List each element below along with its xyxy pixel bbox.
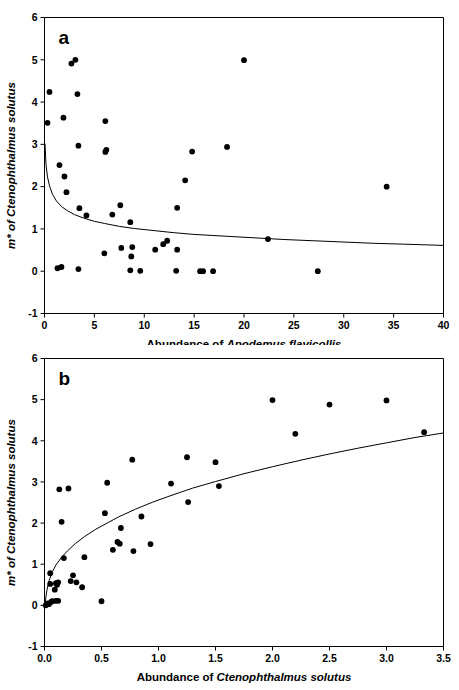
- data-point: [103, 147, 109, 153]
- y-tick-label: -1: [28, 307, 37, 319]
- data-point: [47, 570, 53, 576]
- y-tick-label: 0: [32, 599, 38, 611]
- x-axis-title-plain: Abundance of: [147, 338, 227, 346]
- data-point: [384, 184, 390, 190]
- data-point: [131, 548, 137, 554]
- fit-curve: [45, 433, 443, 605]
- x-tick-label: 1.5: [208, 652, 223, 664]
- x-tick-label: 0.0: [37, 652, 52, 664]
- x-axis-title: Abundance of Ctenophthalmus solutus: [137, 671, 352, 683]
- data-point: [68, 578, 74, 584]
- data-point: [127, 219, 133, 225]
- fit-curve: [45, 144, 444, 246]
- data-point: [47, 581, 53, 587]
- x-tick-label: 3.5: [436, 652, 451, 664]
- data-point: [61, 555, 67, 561]
- data-point: [59, 264, 65, 270]
- plot-frame: [45, 359, 444, 647]
- data-point: [47, 89, 53, 95]
- x-tick-label: 1.0: [151, 652, 166, 664]
- data-point: [421, 429, 427, 435]
- data-point: [164, 238, 170, 244]
- x-tick-label: 5: [91, 319, 97, 331]
- y-tick-label: 0: [32, 265, 38, 277]
- x-axis-title: Abundance of Apodemus flavicollis: [147, 338, 342, 346]
- data-point: [184, 454, 190, 460]
- data-point: [265, 236, 271, 242]
- panel-letter: b: [59, 368, 71, 389]
- y-tick-label: 5: [32, 393, 38, 405]
- data-point: [110, 547, 116, 553]
- data-point: [216, 483, 222, 489]
- x-tick-label: 10: [138, 319, 150, 331]
- data-point: [102, 510, 108, 516]
- x-tick-label: 0: [42, 319, 48, 331]
- y-tick-label: 6: [32, 11, 38, 23]
- data-point: [45, 120, 51, 126]
- data-point: [185, 499, 191, 505]
- data-point: [73, 57, 79, 63]
- data-point: [148, 541, 154, 547]
- data-point: [152, 247, 158, 253]
- y-tick-label: 1: [32, 223, 38, 235]
- data-point: [224, 144, 230, 150]
- data-point: [137, 268, 143, 274]
- y-tick-label: 3: [32, 476, 38, 488]
- panel-b-plot: 0.00.51.01.52.02.53.03.5-10123456bAbunda…: [0, 345, 459, 690]
- y-tick-label: 5: [32, 54, 38, 66]
- x-tick-label: 2.5: [322, 652, 337, 664]
- data-point: [327, 402, 333, 408]
- y-tick-label: 3: [32, 138, 38, 150]
- data-point: [139, 514, 145, 520]
- data-point: [84, 213, 90, 219]
- data-point: [292, 431, 298, 437]
- data-point: [129, 244, 135, 250]
- data-point: [174, 205, 180, 211]
- data-point: [182, 177, 188, 183]
- x-tick-label: 35: [388, 319, 400, 331]
- data-point: [55, 579, 61, 585]
- x-tick-label: 2.0: [265, 652, 280, 664]
- x-axis-title-species: Apodemus flavicollis: [225, 338, 341, 346]
- y-axis-title: m* of Ctenophthalmus solutus: [5, 419, 17, 586]
- data-point: [315, 268, 321, 274]
- data-point: [55, 598, 61, 604]
- data-point: [128, 254, 134, 260]
- y-tick-label: 2: [32, 180, 38, 192]
- y-tick-label: 6: [32, 352, 38, 364]
- data-point: [101, 251, 107, 257]
- data-point: [189, 149, 195, 155]
- data-point: [102, 118, 108, 124]
- data-point: [173, 268, 179, 274]
- x-tick-label: 40: [438, 319, 450, 331]
- data-point: [76, 266, 82, 272]
- panel-a: 0510152025303540-10123456aAbundance of A…: [0, 0, 459, 345]
- y-tick-label: 1: [32, 558, 38, 570]
- data-point: [210, 268, 216, 274]
- data-point: [200, 268, 206, 274]
- data-point: [118, 525, 124, 531]
- data-point: [129, 457, 135, 463]
- data-point: [64, 189, 70, 195]
- panel-letter: a: [59, 27, 70, 48]
- y-tick-label: -1: [28, 640, 37, 652]
- x-axis-title-plain: Abundance of: [137, 671, 217, 683]
- panel-a-plot: 0510152025303540-10123456aAbundance of A…: [0, 0, 459, 345]
- x-tick-label: 25: [288, 319, 300, 331]
- x-tick-label: 0.5: [94, 652, 109, 664]
- y-tick-label: 4: [32, 435, 38, 447]
- data-point: [82, 554, 88, 560]
- data-point: [168, 481, 174, 487]
- y-tick-label: 2: [32, 517, 38, 529]
- x-tick-label: 15: [188, 319, 200, 331]
- data-point: [77, 205, 83, 211]
- x-tick-label: 20: [238, 319, 250, 331]
- data-point: [127, 267, 133, 273]
- data-point: [270, 397, 276, 403]
- data-point: [74, 579, 80, 585]
- data-point: [213, 459, 219, 465]
- data-point: [104, 480, 110, 486]
- data-point: [109, 212, 115, 218]
- data-point: [174, 247, 180, 253]
- data-point: [61, 115, 67, 121]
